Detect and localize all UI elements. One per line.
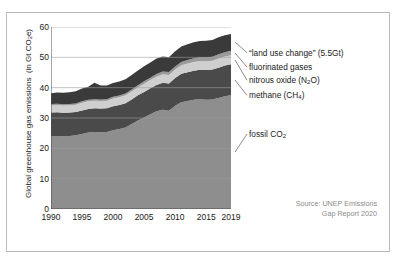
x-tick-2010: 2010 (166, 213, 185, 222)
stacked-area-chart (51, 27, 231, 209)
y-axis-tick-labels: 0102030405060 (23, 27, 49, 209)
source-line-1: Source: UNEP Emissions (267, 199, 377, 209)
x-tick-1990: 1990 (42, 213, 61, 222)
y-tick-30: 30 (27, 114, 49, 123)
y-tick-40: 40 (27, 84, 49, 93)
y-tick-10: 10 (27, 175, 49, 184)
x-tick-2019: 2019 (222, 213, 241, 222)
x-tick-2005: 2005 (135, 213, 154, 222)
figure-frame: Global greenhouse gas emissions (in Gt C… (6, 12, 390, 252)
legend-item-3: methane (CH4) (249, 91, 304, 100)
legend-item-0: “land use change” (5.5Gt) (249, 49, 344, 58)
legend-item-4: fossil CO2 (249, 130, 286, 139)
legend-item-2: nitrous oxide (N2O) (249, 76, 320, 85)
x-axis-tick-labels: 1990199520002005201020152019 (51, 213, 237, 227)
source-line-2: Gap Report 2020 (267, 209, 377, 219)
x-tick-2000: 2000 (104, 213, 123, 222)
plot-area (51, 27, 231, 209)
x-tick-1995: 1995 (73, 213, 92, 222)
y-tick-20: 20 (27, 144, 49, 153)
x-tick-2015: 2015 (197, 213, 216, 222)
legend-item-1: fluorinated gases (249, 63, 312, 72)
y-tick-60: 60 (27, 23, 49, 32)
y-tick-50: 50 (27, 53, 49, 62)
source-note: Source: UNEP Emissions Gap Report 2020 (267, 199, 377, 218)
